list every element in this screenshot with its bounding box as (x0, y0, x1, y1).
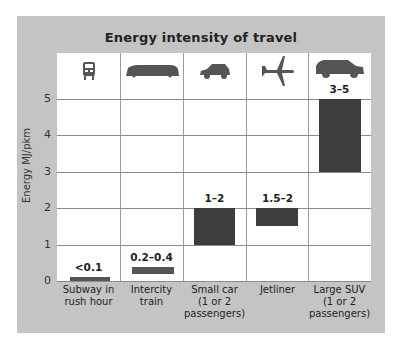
ytick: 1 (41, 238, 51, 251)
x-label-small-car: Small car (1 or 2 passengers) (183, 284, 246, 320)
chart-title: Energy intensity of travel (17, 30, 385, 45)
x-label-jetliner: Jetliner (246, 284, 309, 296)
column-divider (246, 53, 247, 281)
gridline-1 (57, 245, 371, 246)
bar-large-suv (319, 99, 361, 172)
y-axis-label: Energy MJ/pkm (21, 128, 32, 203)
intercity-train-icon (120, 59, 183, 83)
x-label-intercity-train: Intercity train (120, 284, 183, 308)
subway-train-icon (57, 59, 120, 83)
suv-icon (308, 57, 371, 81)
ytick: 3 (41, 165, 51, 178)
ytick: 0 (41, 274, 51, 287)
column-divider (120, 53, 121, 281)
column-divider (183, 53, 184, 281)
bar-intercity-train (132, 267, 174, 274)
bar-subway (70, 277, 110, 281)
bar-jetliner (256, 208, 298, 226)
gridline-3 (57, 172, 371, 173)
x-label-large-suv: Large SUV (1 or 2 passengers) (308, 284, 371, 320)
ytick: 4 (41, 128, 51, 141)
ytick: 2 (41, 201, 51, 214)
gridline-0 (57, 281, 371, 282)
bar-label-intercity-train: 0.2–0.4 (120, 251, 183, 263)
chart-panel: Energy intensity of travel 5 4 3 2 1 0 (17, 16, 385, 333)
airplane-icon (246, 59, 309, 83)
bar-label-jetliner: 1.5–2 (246, 192, 309, 204)
bar-label-large-suv: 3–5 (308, 83, 371, 95)
plot-area: 5 4 3 2 1 0 <0.1 0.2–0.4 1–2 1.5–2 (57, 53, 371, 281)
bar-label-subway: <0.1 (57, 261, 120, 273)
ytick: 5 (41, 92, 51, 105)
bar-label-small-car: 1–2 (183, 192, 246, 204)
bar-small-car (194, 208, 235, 245)
x-label-subway: Subway in rush hour (57, 284, 120, 308)
small-car-icon (183, 59, 246, 83)
